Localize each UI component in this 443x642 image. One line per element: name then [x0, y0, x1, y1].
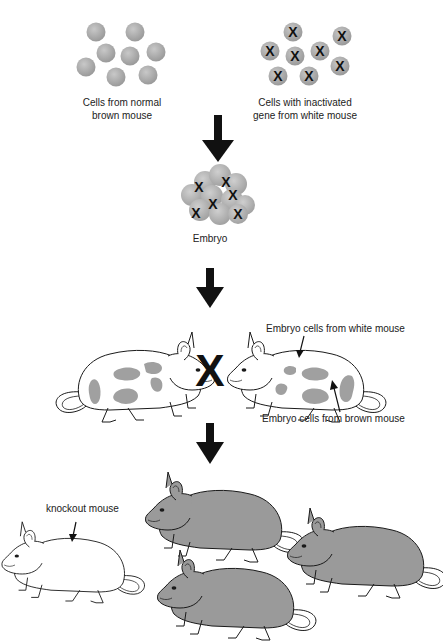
inactivated-cells-label: Cells with inactivated gene from white m… — [245, 96, 365, 122]
annotation-white-cells-label: Embryo cells from white mouse — [266, 322, 443, 335]
embryo-label: Embryo — [180, 232, 240, 245]
brown-mouse-offspring-3 — [287, 508, 443, 598]
svg-text:X: X — [208, 196, 218, 212]
normal-brown-cells — [77, 23, 166, 87]
arrow-down-icon — [202, 115, 234, 162]
inactivated-cells-label-line2: gene from white mouse — [245, 109, 365, 122]
svg-text:X: X — [228, 187, 238, 203]
svg-text:X: X — [337, 28, 347, 44]
inactivated-cells-label-line1: Cells with inactivated — [245, 96, 365, 109]
svg-text:X: X — [265, 43, 275, 59]
cross-symbol: X — [195, 346, 224, 395]
svg-text:X: X — [233, 206, 243, 222]
chimera-mouse-left — [56, 332, 214, 422]
svg-text:X: X — [194, 179, 204, 195]
svg-text:X: X — [288, 24, 298, 40]
normal-cells-label-line1: Cells from normal — [62, 96, 182, 109]
svg-text:X: X — [290, 48, 300, 64]
svg-text:X: X — [191, 205, 201, 221]
chimera-mouse-right — [227, 332, 385, 422]
annotation-brown-cells-label: Embryo cells from brown mouse — [262, 412, 442, 425]
svg-text:X: X — [273, 68, 283, 84]
knockout-mouse-label: knockout mouse — [46, 502, 146, 515]
svg-text:X: X — [335, 58, 345, 74]
svg-text:X: X — [315, 43, 325, 59]
inactivated-gene-cells: X X X X X X X X — [261, 23, 352, 86]
arrow-down-icon — [196, 268, 224, 308]
embryo-cluster: X X X X X X — [181, 164, 255, 225]
brown-mouse-offspring-2 — [157, 550, 315, 640]
normal-cells-label-line2: brown mouse — [62, 109, 182, 122]
svg-text:X: X — [304, 68, 314, 84]
cross-x-glyph: X — [195, 346, 224, 395]
brown-mouse-offspring-1 — [145, 472, 303, 562]
normal-cells-label: Cells from normal brown mouse — [62, 96, 182, 122]
arrow-down-icon — [196, 423, 224, 464]
